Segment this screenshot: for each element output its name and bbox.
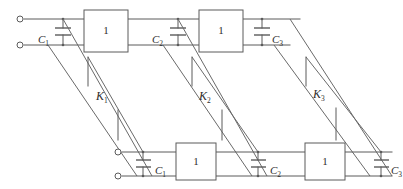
- circuit-diagram-canvas: C1 C2 C3 C1 C2 C3 K1 K2 K3 1 1 1 1: [0, 0, 403, 189]
- capacitor-c3-bottom: [374, 151, 389, 178]
- c3-top-node-upper: [261, 18, 264, 21]
- c3-bottom-node-lower: [380, 175, 383, 178]
- label-c2-bottom: C2: [270, 165, 281, 179]
- c1-top-node-lower: [62, 44, 65, 47]
- input-terminal-lower: [17, 42, 23, 48]
- label-c3-top: C3: [272, 34, 283, 48]
- input-terminal-upper: [17, 16, 23, 22]
- capacitor-c3-top: [254, 18, 270, 47]
- c2-bottom-node-upper: [257, 151, 260, 154]
- capacitor-c2-top: [170, 18, 186, 47]
- output-terminal-lower: [115, 173, 121, 179]
- c2-top-node-lower: [177, 44, 180, 47]
- label-gain-block-top-2: 1: [199, 25, 243, 36]
- c3-bottom-node-upper: [380, 151, 383, 154]
- label-k1: K1: [96, 90, 108, 105]
- c3-top-node-lower: [261, 44, 264, 47]
- label-c1-top: C1: [38, 34, 49, 48]
- capacitor-c1-bottom: [136, 151, 151, 178]
- c2-bottom-node-lower: [257, 175, 260, 178]
- label-c2-top: C2: [152, 34, 163, 48]
- capacitor-c2-bottom: [251, 151, 266, 178]
- output-terminal-upper: [115, 149, 121, 155]
- c1-bottom-node-upper: [142, 151, 145, 154]
- label-gain-block-bottom-2: 1: [305, 156, 345, 167]
- label-k2: K2: [199, 90, 211, 105]
- label-gain-block-bottom-1: 1: [176, 156, 216, 167]
- label-c1-bottom: C1: [155, 165, 166, 179]
- label-k3: K3: [313, 88, 325, 103]
- label-c3-bottom: C3: [391, 165, 402, 179]
- capacitor-c1-top: [55, 18, 71, 47]
- c1-bottom-node-lower: [142, 175, 145, 178]
- label-gain-block-top-1: 1: [84, 25, 128, 36]
